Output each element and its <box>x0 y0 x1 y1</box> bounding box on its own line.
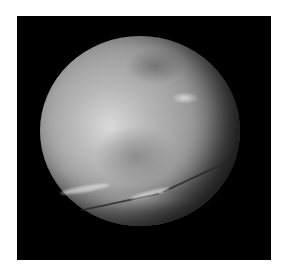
image-frame <box>17 16 271 260</box>
moon-photo <box>40 36 240 226</box>
bright-terrain <box>60 182 110 197</box>
bright-terrain <box>130 186 170 201</box>
canyon-feature <box>163 161 227 192</box>
